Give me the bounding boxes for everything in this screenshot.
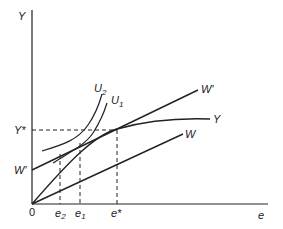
y-curve-label: Y bbox=[213, 113, 221, 125]
economics-diagram: Y e 0 W′ Y W U2 U1 Y* W′ e2 e1 e* bbox=[0, 0, 283, 229]
e1-label: e1 bbox=[75, 207, 86, 221]
w-line bbox=[32, 134, 183, 204]
x-axis-label: e bbox=[258, 209, 264, 221]
y-axis-label: Y bbox=[18, 10, 26, 22]
y-star-label: Y* bbox=[14, 124, 26, 136]
w-prime-intercept-label: W′ bbox=[14, 164, 27, 176]
e-star-label: e* bbox=[111, 207, 122, 219]
u2-label: U2 bbox=[94, 82, 107, 97]
w-prime-line-label: W′ bbox=[201, 83, 214, 95]
e2-label: e2 bbox=[55, 207, 66, 221]
u1-label: U1 bbox=[111, 94, 123, 109]
origin-label: 0 bbox=[29, 206, 35, 218]
w-line-label: W bbox=[185, 128, 197, 140]
